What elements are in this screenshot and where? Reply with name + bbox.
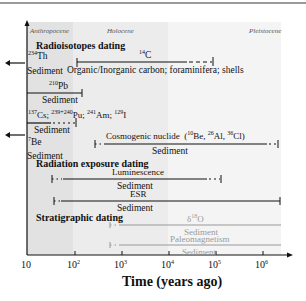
be10-symbol: Be, [193, 131, 208, 141]
am-mass-number: 241 [87, 109, 96, 115]
tick-exponent: 3 [124, 259, 127, 265]
timeline-plot: Anthropocene Holocene Pleistocene [27, 22, 294, 255]
pb210-mass-number: 210 [49, 80, 58, 86]
tick-10-2: 102 [67, 259, 80, 270]
cs-mass-number: 137 [28, 109, 37, 115]
pb210-symbol: Pb [58, 81, 68, 91]
tick-base: 10 [161, 259, 171, 270]
c14-material: Organic/Inorganic carbon; foraminifera; … [67, 65, 244, 75]
label-d18o: δ18O [187, 214, 204, 224]
th234-material: Sediment [27, 66, 63, 76]
cs-symbol: Cs; [37, 110, 51, 120]
i-symbol: I [123, 110, 126, 120]
i-mass-number: 129 [114, 109, 123, 115]
be7-symbol: Be [31, 137, 42, 147]
tick-10-3: 103 [114, 259, 127, 270]
cosmogenic-material: Sediment [152, 146, 188, 156]
x-axis-label: Time (years ago) [122, 274, 222, 290]
tick-10-6: 106 [255, 259, 268, 270]
label-c14: 14C [139, 50, 151, 60]
tick-exponent: 4 [171, 259, 174, 265]
c14-symbol: C [145, 50, 151, 60]
th234-symbol: Th [37, 51, 48, 61]
header-radioisotopes: Radioisotopes dating [36, 40, 125, 51]
tick-exponent: 6 [265, 259, 268, 265]
tick-base: 10 [21, 259, 31, 270]
label-pb210: 210Pb [49, 81, 68, 91]
label-esr: ESR [130, 189, 147, 199]
th234-mass-number: 234 [28, 50, 37, 56]
tick-exponent: 5 [218, 259, 221, 265]
tick-base: 10 [255, 259, 265, 270]
tick-exponent: 2 [77, 259, 80, 265]
label-th234: 234Th [28, 51, 48, 61]
label-cosmogenic: Cosmogenic nuclide (10Be, 26Al, 36Cl) [106, 131, 245, 141]
cosmogenic-title: Cosmogenic nuclide [106, 131, 180, 141]
paleomag-material: Sediment [182, 247, 216, 257]
oxygen-symbol: O [197, 214, 204, 224]
tick-base: 10 [208, 259, 218, 270]
am-symbol: Am; [96, 110, 114, 120]
tick-base: 10 [114, 259, 124, 270]
header-stratigraphic: Stratigraphic dating [36, 212, 123, 223]
tick-10-4: 104 [161, 259, 174, 270]
pu-symbol: Pu; [73, 110, 87, 120]
label-be7: 7Be [28, 137, 42, 147]
tick-10-5: 105 [208, 259, 221, 270]
label-cs-pu-am-i: 137Cs; 239+240Pu; 241Am; 129I [28, 110, 126, 120]
label-paleomagnetism: Paleomagnetism [170, 234, 230, 244]
cs-material: Sediment [34, 125, 70, 135]
tick-10-1: 10 [21, 259, 31, 270]
label-luminescence: Luminescence [112, 167, 164, 177]
al26-symbol: Al, [214, 131, 228, 141]
cl36-symbol: Cl) [233, 131, 245, 141]
top-border [0, 2, 306, 4]
pb210-material: Sediment [42, 95, 78, 105]
pu-mass-number: 239+240 [51, 109, 72, 115]
tick-base: 10 [67, 259, 77, 270]
